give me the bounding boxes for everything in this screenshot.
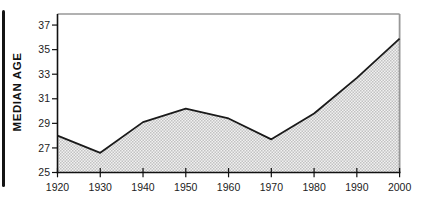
x-tick-label: 1990 [345,181,369,193]
x-tick-label: 1930 [89,181,113,193]
x-tick-label: 2000 [388,181,412,193]
x-tick-label: 1950 [174,181,198,193]
y-tick-label: 35 [38,43,50,55]
y-tick-label: 31 [38,92,50,104]
x-tick-label: 1970 [260,181,284,193]
y-tick-label: 37 [38,19,50,31]
y-tick-label: 27 [38,142,50,154]
x-tick-label: 1940 [131,181,155,193]
y-tick-label: 29 [38,117,50,129]
x-tick-label: 1920 [46,181,70,193]
x-tick-label: 1980 [302,181,326,193]
y-tick-label: 25 [38,166,50,178]
median-age-area-chart: 2527293133353719201930194019501960197019… [0,0,423,205]
x-tick-label: 1960 [217,181,241,193]
chart-figure: 2527293133353719201930194019501960197019… [0,0,423,205]
y-axis-title: MEDIAN AGE [11,52,23,131]
median-age-area [58,39,400,173]
y-tick-label: 33 [38,68,50,80]
